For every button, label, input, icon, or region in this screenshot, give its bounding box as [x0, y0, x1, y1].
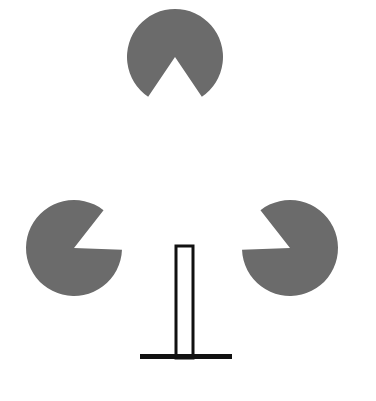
illusion-canvas: Kanizsa illusory triangle with inverted-… — [0, 0, 376, 401]
vertical-post-outline — [176, 246, 193, 358]
kanizsa-figure: Kanizsa illusory triangle with inverted-… — [0, 0, 376, 401]
horizontal-base-bar — [140, 354, 232, 359]
